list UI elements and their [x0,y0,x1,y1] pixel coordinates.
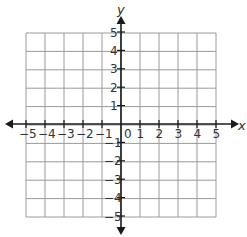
y-tick-label: 3 [110,62,118,76]
y-tick-label: −4 [104,191,122,205]
origin-label: 0 [124,127,132,141]
y-tick-label: 1 [110,99,118,113]
x-tick-label: 2 [156,127,164,141]
y-tick-label: 5 [110,26,118,40]
x-tick-label: −2 [76,127,94,141]
x-tick-label: −4 [38,127,56,141]
y-axis-down-arrow-icon [117,227,126,235]
x-tick-label: −5 [19,127,37,141]
x-tick-label: 1 [137,127,145,141]
y-axis-label: y [116,2,125,17]
y-tick-label: −3 [104,173,122,187]
y-tick-label: 4 [110,44,118,58]
x-tick-label: 5 [213,127,221,141]
y-tick-label: 2 [110,81,118,95]
x-tick-label: −3 [57,127,75,141]
y-tick-label: −2 [104,154,122,168]
y-axis-up-arrow-icon [117,16,126,24]
x-tick-label: 4 [194,127,202,141]
y-tick-label: −1 [104,136,122,150]
x-axis-label: x [237,118,246,133]
coordinate-plane: −5−4−3−2−11234554321−1−2−3−4−5 x y 0 [0,0,247,237]
x-axis-left-arrow-icon [5,120,13,129]
x-tick-label: 3 [175,127,183,141]
y-tick-label: −5 [104,210,122,224]
